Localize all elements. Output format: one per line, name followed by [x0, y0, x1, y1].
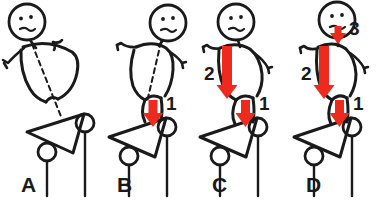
force-label-2: 2 — [204, 63, 215, 84]
eye-left — [330, 14, 334, 18]
hip — [332, 96, 347, 100]
eye-right — [340, 13, 344, 17]
panel-b-drawing: 1 B — [97, 0, 197, 204]
torso-front — [131, 50, 145, 100]
torso-front — [21, 50, 46, 102]
mouth-frown — [229, 28, 244, 31]
panel-label-c: C — [212, 173, 227, 196]
eye-left — [161, 17, 165, 21]
eye-left — [229, 16, 233, 20]
panel-d-drawing: 3 2 1 D — [288, 0, 387, 204]
hand-right-2 — [182, 63, 183, 68]
hand-left — [4, 63, 7, 68]
panel-label-b: B — [117, 173, 132, 196]
force-label-1: 1 — [259, 93, 270, 114]
panel-c: 2 1 C — [194, 0, 294, 204]
eye-right — [29, 15, 33, 19]
dashed-axis — [32, 44, 62, 119]
hip — [46, 98, 58, 102]
mouth-frown — [20, 28, 35, 31]
head — [9, 4, 45, 40]
leg-left — [233, 100, 236, 124]
panel-d: 3 2 1 D — [288, 0, 387, 204]
force-label-2: 2 — [301, 63, 312, 84]
panel-label-a: A — [21, 173, 36, 196]
dashed-axis — [147, 42, 161, 102]
panel-label-d: D — [306, 173, 321, 196]
hand-right-2 — [268, 68, 269, 73]
wheel-right — [249, 118, 267, 136]
wheel-right — [343, 118, 361, 136]
force-label-1: 1 — [353, 93, 364, 114]
head — [150, 5, 186, 41]
leg-left — [143, 100, 146, 122]
eye-right — [239, 15, 243, 19]
force-label-3: 3 — [349, 18, 360, 39]
head — [218, 4, 254, 40]
hand-left — [300, 48, 301, 53]
wheel-left — [38, 143, 56, 161]
force-label-1: 1 — [166, 93, 177, 114]
panel-a-drawing: A — [0, 0, 100, 204]
wheel-left — [120, 147, 138, 165]
panel-a: A — [0, 0, 100, 204]
leg-right — [161, 98, 162, 120]
mouth-frown — [161, 29, 176, 32]
hip — [236, 96, 253, 100]
hand-left — [117, 45, 118, 50]
wheel-left — [211, 147, 229, 165]
leg-left — [329, 100, 332, 124]
hand-right-2 — [364, 68, 365, 73]
panel-c-drawing: 2 1 C — [194, 0, 294, 204]
panel-b: 1 B — [97, 0, 197, 204]
eye-right — [171, 16, 175, 20]
arm-left — [300, 46, 319, 49]
wheel-right — [76, 114, 94, 132]
arm-left — [203, 45, 221, 49]
wheel-left — [305, 147, 323, 165]
figure-canvas: A — [0, 0, 387, 204]
arm-left — [117, 43, 137, 47]
eye-left — [19, 17, 23, 21]
wheel-right — [158, 118, 176, 136]
hand-left — [203, 47, 204, 52]
